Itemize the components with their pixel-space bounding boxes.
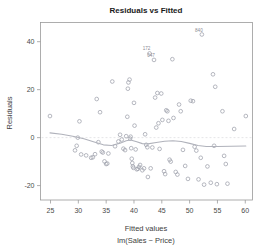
data-point <box>212 144 216 148</box>
data-point <box>156 91 160 95</box>
data-point <box>197 178 201 182</box>
outlier-label: 172 <box>143 46 151 51</box>
data-point <box>126 87 130 91</box>
data-point <box>161 118 165 122</box>
data-point <box>84 154 88 158</box>
chart-canvas: Residuals vs Fitted 2530354045505560 -20… <box>0 0 268 251</box>
data-point <box>95 97 99 101</box>
data-point <box>143 132 147 136</box>
x-tick-label: 60 <box>241 207 249 214</box>
data-point <box>157 121 161 125</box>
x-tick-label: 35 <box>102 207 110 214</box>
data-point <box>73 149 77 153</box>
residuals-vs-fitted-plot: Residuals vs Fitted 2530354045505560 -20… <box>0 0 268 251</box>
data-point <box>78 119 82 123</box>
data-point <box>226 182 230 186</box>
y-tick-label: 0 <box>31 134 35 141</box>
data-point <box>125 115 129 119</box>
outlier-labels: 840172047 <box>143 28 203 58</box>
data-point <box>100 150 104 154</box>
outlier-label: 047 <box>147 53 155 58</box>
data-point <box>110 80 114 84</box>
data-point <box>120 138 124 142</box>
x-tick-label: 25 <box>47 207 55 214</box>
data-point <box>232 127 236 131</box>
x-tick-label: 30 <box>74 207 82 214</box>
data-point <box>107 152 111 156</box>
data-point <box>101 151 105 155</box>
data-point <box>183 164 187 168</box>
x-axis-ticks: 2530354045505560 <box>47 200 250 214</box>
data-point <box>171 57 175 61</box>
outlier-label: 840 <box>195 28 203 33</box>
data-point <box>154 126 158 130</box>
data-point <box>118 133 122 137</box>
y-axis-ticks: -2002040 <box>24 38 40 189</box>
y-tick-label: -20 <box>24 182 34 189</box>
data-point <box>132 101 136 105</box>
data-point <box>134 148 138 152</box>
data-point <box>129 146 133 150</box>
data-point <box>200 33 204 37</box>
data-point <box>130 157 134 161</box>
data-point <box>150 146 154 150</box>
chart-title: Residuals vs Fitted <box>110 6 183 15</box>
data-point <box>79 153 83 157</box>
data-point <box>202 183 206 187</box>
data-point <box>186 177 190 181</box>
x-axis-label: Fitted values <box>125 224 168 233</box>
data-point <box>194 149 198 153</box>
x-tick-label: 45 <box>158 207 166 214</box>
data-point <box>159 92 163 96</box>
y-axis-label: Residuals <box>5 96 14 129</box>
data-point <box>215 182 219 186</box>
data-point <box>149 166 153 170</box>
data-point <box>153 96 157 100</box>
y-tick-label: 40 <box>27 38 35 45</box>
data-point <box>177 103 181 107</box>
data-point <box>191 99 195 103</box>
data-point <box>181 148 185 152</box>
data-point <box>167 119 171 123</box>
data-point <box>158 147 162 151</box>
x-tick-label: 50 <box>186 207 194 214</box>
y-tick-label: 20 <box>27 86 35 93</box>
data-point <box>222 154 226 158</box>
data-point <box>244 114 248 118</box>
data-point <box>152 58 156 62</box>
data-point <box>224 162 228 166</box>
data-point <box>146 175 150 179</box>
data-point <box>199 156 203 160</box>
data-point <box>75 144 79 148</box>
data-point <box>179 109 183 113</box>
data-point <box>221 109 225 113</box>
data-point <box>211 72 215 76</box>
data-point <box>133 124 137 128</box>
data-point <box>172 116 176 120</box>
x-tick-label: 40 <box>130 207 138 214</box>
data-point <box>48 114 52 118</box>
data-point <box>209 181 213 185</box>
data-point <box>206 165 210 169</box>
x-axis-sublabel: lm(Sales ~ Price) <box>117 236 175 245</box>
data-point <box>98 110 102 114</box>
x-tick-label: 55 <box>214 207 222 214</box>
data-point <box>213 85 217 89</box>
data-point <box>93 152 97 156</box>
